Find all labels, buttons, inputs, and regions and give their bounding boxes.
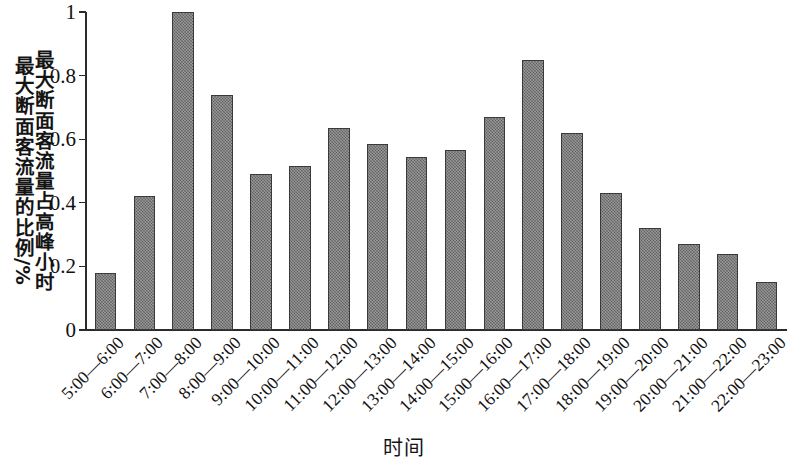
bar [134, 196, 156, 330]
y-axis-tick-mark [79, 266, 86, 267]
bar-chart-figure: 最大断面客流量占高峰小时 最大断面客流量的比例/% 00.20.40.60.81… [0, 0, 807, 469]
y-axis-tick-label: 0.4 [50, 192, 76, 213]
bar [211, 95, 233, 330]
y-axis-tick-label: 0 [66, 320, 77, 341]
bar [172, 12, 194, 330]
x-axis-title: 时间 [0, 432, 807, 461]
bar [328, 128, 350, 330]
y-axis-tick-mark [79, 139, 86, 140]
y-axis-title: 最大断面客流量占高峰小时 最大断面客流量的比例/% [6, 6, 58, 336]
y-axis-tick-label: 0.2 [50, 256, 76, 277]
y-axis-title-line-2: 最大断面客流量的比例/% [12, 56, 32, 285]
bar [406, 157, 428, 330]
x-axis-ticks: 5:00—6:006:00—7:007:00—8:008:00—9:009:00… [86, 332, 786, 432]
bar [561, 133, 583, 330]
y-axis-tick-label: 0.6 [50, 129, 76, 150]
bar [717, 254, 739, 330]
bar [95, 273, 117, 330]
bar [250, 174, 272, 330]
bar [522, 60, 544, 330]
bar [600, 193, 622, 330]
y-axis-tick-label: 0.8 [50, 65, 76, 86]
bar [445, 150, 467, 330]
bar [484, 117, 506, 330]
plot-area: 00.20.40.60.81 [86, 12, 786, 330]
bar [367, 144, 389, 330]
bar [289, 166, 311, 330]
y-axis-tick-mark [79, 75, 86, 76]
y-axis-tick-mark [79, 11, 86, 12]
y-axis-tick-mark [79, 202, 86, 203]
y-axis-tick-label: 1 [66, 2, 77, 23]
bar [639, 228, 661, 330]
bar [756, 282, 778, 330]
bar [678, 244, 700, 330]
y-axis-tick-mark [79, 329, 86, 330]
bar-series [86, 12, 786, 330]
